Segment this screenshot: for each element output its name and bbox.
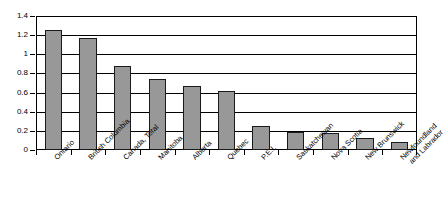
y-axis-tick: [30, 112, 35, 113]
bar: [149, 79, 166, 150]
y-axis-tick-label: 0.6: [17, 89, 28, 97]
y-axis-tick: [30, 54, 35, 55]
bar: [183, 86, 200, 150]
y-axis-tick-label: 1: [24, 50, 28, 58]
bar: [79, 38, 96, 150]
bar: [45, 30, 62, 150]
y-axis-tick-label: 0.2: [17, 127, 28, 135]
y-axis-tick: [30, 73, 35, 74]
y-axis-tick-label: 0.8: [17, 69, 28, 77]
y-axis-tick-label: 0.4: [17, 108, 28, 116]
y-axis-tick: [30, 16, 35, 17]
y-axis-tick: [30, 93, 35, 94]
y-axis-tick: [30, 35, 35, 36]
y-axis-tick-label: 1.2: [17, 31, 28, 39]
y-axis-tick: [30, 131, 35, 132]
y-axis-tick-label: 1.4: [17, 12, 28, 20]
bar: [218, 91, 235, 150]
x-axis-labels: OntarioBritish ColumbiaCanada, TotalMani…: [0, 150, 428, 211]
